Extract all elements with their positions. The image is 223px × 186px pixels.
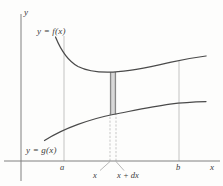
y-axis-label: y: [24, 8, 28, 17]
figure-vector-layer: [0, 0, 223, 186]
curve-g: [45, 102, 207, 141]
tick-label-x: x: [93, 171, 97, 180]
lower-curve-label: y = g(x): [26, 146, 57, 155]
tick-label-x-plus-dx: x + dx: [117, 171, 139, 180]
guide-lines: [64, 36, 179, 161]
figure-canvas: y x y = f(x) y = g(x) a b x x + dx: [0, 0, 223, 186]
tick-label-a: a: [60, 163, 64, 172]
curve-f: [56, 37, 207, 72]
x-axis-label: x: [210, 163, 214, 172]
differential-strip: [110, 72, 116, 115]
upper-curve-label: y = f(x): [37, 27, 66, 36]
tick-label-b: b: [176, 163, 180, 172]
leader-line-x: [100, 162, 110, 171]
